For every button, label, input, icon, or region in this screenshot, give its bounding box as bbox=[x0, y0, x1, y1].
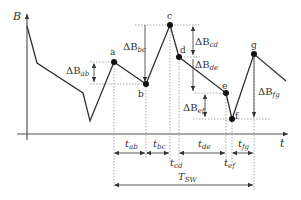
point-label-b: b bbox=[138, 89, 144, 99]
diagram-canvas: B t a b c d e f g bbox=[0, 0, 301, 200]
time-interval-labels: tab tbc tcd tde tef tfg TSW bbox=[125, 138, 250, 184]
t-ef-label: tef bbox=[224, 157, 236, 170]
point-label-f: f bbox=[235, 111, 239, 121]
t-cd-label: tcd bbox=[170, 157, 183, 170]
point-c bbox=[167, 22, 173, 28]
delta-b-fg-label: ΔBfg bbox=[258, 86, 280, 99]
t-sw-label: TSW bbox=[178, 171, 197, 184]
point-label-d: d bbox=[180, 45, 186, 55]
point-label-g: g bbox=[251, 40, 257, 50]
delta-b-ef-label: ΔBef bbox=[183, 102, 206, 115]
point-b bbox=[143, 81, 149, 87]
t-de-label: tde bbox=[198, 138, 211, 151]
t-ab-label: tab bbox=[125, 138, 138, 151]
horizontal-guides bbox=[90, 25, 270, 119]
flux-waveform-diagram: B t a b c d e f g bbox=[0, 0, 301, 200]
delta-b-de-label: ΔBde bbox=[195, 59, 218, 72]
delta-b-labels: ΔBab ΔBbc ΔBcd ΔBde ΔBef ΔBfg bbox=[66, 36, 280, 115]
axes: B t bbox=[12, 10, 288, 150]
point-label-a: a bbox=[110, 47, 116, 57]
t-bc-label: tbc bbox=[153, 138, 166, 151]
x-axis-label: t bbox=[280, 137, 285, 150]
delta-b-ab-label: ΔBab bbox=[66, 65, 90, 78]
delta-b-cd-label: ΔBcd bbox=[195, 36, 218, 49]
point-label-e: e bbox=[222, 81, 227, 91]
y-axis-label: B bbox=[12, 10, 21, 23]
point-a bbox=[111, 59, 117, 65]
delta-b-bc-label: ΔBbc bbox=[123, 41, 146, 54]
point-label-c: c bbox=[167, 11, 172, 21]
t-fg-label: tfg bbox=[238, 138, 250, 151]
point-g bbox=[251, 51, 257, 57]
